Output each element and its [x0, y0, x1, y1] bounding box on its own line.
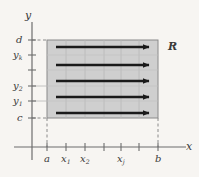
- x-tick-label-xj: xj: [117, 154, 125, 165]
- y-tick-sub: 1: [19, 100, 23, 107]
- y-tick-label-c: c: [17, 113, 23, 124]
- region-rectangle: [47, 40, 158, 118]
- y-tick-label-yk: yk: [13, 50, 22, 61]
- figure-svg: [0, 0, 199, 177]
- x-tick-label-x1: x1: [61, 154, 71, 165]
- y-tick-label-d: d: [16, 35, 22, 46]
- region-label: R: [168, 41, 177, 52]
- x-tick-main: b: [155, 153, 161, 164]
- x-tick-label-a: a: [44, 154, 50, 165]
- y-tick-main: d: [16, 34, 22, 45]
- math-figure-canvas: y x R d yk y2 y1 c a x1 x2 xj b: [0, 0, 199, 177]
- y-tick-label-y1: y1: [13, 96, 23, 107]
- y-leader-lines: [32, 86, 47, 101]
- x-tick-label-b: b: [155, 154, 161, 165]
- x-tick-sub: j: [123, 158, 125, 165]
- y-tick-sub: 2: [19, 85, 23, 92]
- x-axis-label: x: [186, 141, 192, 152]
- y-tick-sub: k: [19, 54, 23, 61]
- y-tick-label-y2: y2: [13, 81, 23, 92]
- x-tick-sub: 1: [67, 158, 71, 165]
- y-axis-label: y: [25, 10, 31, 21]
- y-tick-main: c: [17, 112, 23, 123]
- x-tick-sub: 2: [86, 158, 90, 165]
- x-tick-main: a: [44, 153, 50, 164]
- x-tick-label-x2: x2: [80, 154, 90, 165]
